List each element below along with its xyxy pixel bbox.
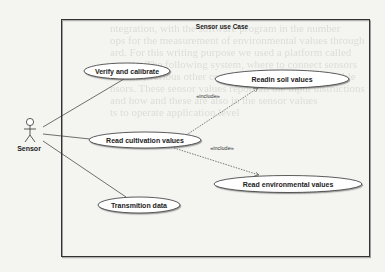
use-case-transmition-data[interactable]: Transmition data [98,197,180,213]
association-line-cultivation [43,134,90,139]
actor-sensor[interactable]: Sensor [17,118,41,152]
use-case-label: Readin soil values [251,76,312,83]
association-line-verify [43,79,124,127]
use-case-label: Verify and calibrate [95,68,159,76]
stick-figure-icon [24,118,36,142]
include-arrow-environmental [174,148,259,175]
association-line-transmit [43,141,126,197]
use-case-verify-and-calibrate[interactable]: Verify and calibrate [84,63,170,79]
use-case-readin-soil-values[interactable]: Readin soil values [215,70,349,88]
use-case-diagram: Sensor use Case «include» «include» Sens… [0,0,385,272]
actor-label: Sensor [17,145,41,152]
use-case-read-cultivation-values[interactable]: Read cultivation values [89,132,201,148]
include-label-soil: «include» [196,93,220,99]
use-case-label: Read cultivation values [106,137,184,144]
use-case-label: Transmition data [111,202,167,209]
use-case-label: Read environmental values [243,181,334,188]
include-label-environmental: «include» [210,145,234,151]
system-title: Sensor use Case [196,23,249,30]
use-case-read-environmental-values[interactable]: Read environmental values [214,176,362,193]
